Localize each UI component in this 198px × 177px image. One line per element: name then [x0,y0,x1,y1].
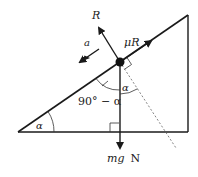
weight-unit: N [130,152,140,165]
base-angle-arc [48,112,54,133]
weight-symbol: mg [107,152,124,165]
force-diagram: α 90° − α α R μR a mg N [0,0,198,177]
normal-extension-dashed [120,62,176,148]
weight-label: mg N [107,148,140,165]
base-angle-label: α [36,120,43,131]
angle-label-90-minus-alpha: 90° − α [78,95,122,108]
incline-surface [18,15,188,132]
normal-reaction-arrow [99,28,120,62]
acceleration-label: a [84,37,90,48]
angle-arc-90-minus-alpha [96,79,120,91]
particle [116,58,125,67]
angle-label-alpha-normal: α [122,82,129,93]
normal-reaction-label: R [91,9,100,22]
friction-label: μR [124,36,139,49]
angle-tick [102,81,108,86]
inclined-plane [18,15,188,132]
right-angle-marker-base [110,123,119,132]
